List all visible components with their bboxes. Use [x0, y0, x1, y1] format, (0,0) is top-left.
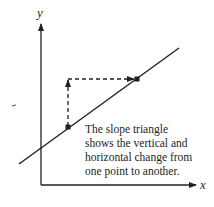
- caption-line-3: horizontal change from: [85, 151, 192, 164]
- slope-triangle-diagram: y x The slope triangle shows the vertica…: [0, 0, 214, 207]
- stray-tick-mark: [12, 105, 16, 106]
- y-axis-label: y: [35, 5, 43, 20]
- point-2-marker: [135, 77, 140, 82]
- x-axis-label: x: [199, 177, 206, 192]
- caption-line-4: one point to another.: [85, 165, 180, 178]
- point-1-marker: [66, 125, 71, 130]
- caption-line-1: The slope triangle: [85, 123, 168, 136]
- caption-line-2: shows the vertical and: [85, 137, 188, 149]
